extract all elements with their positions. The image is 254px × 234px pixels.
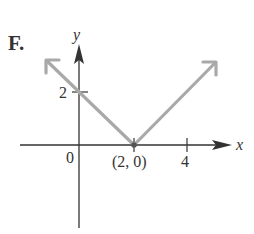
y-tick-label-2: 2: [59, 84, 67, 101]
curve-abs-x-minus-2: [46, 60, 216, 145]
y-axis-label: y: [71, 26, 81, 44]
x-axis-label: x: [235, 136, 243, 153]
vertex-point: [131, 142, 137, 148]
x-axis: [20, 140, 232, 150]
figure-label: F.: [8, 31, 24, 55]
absolute-value-graph: F. x y 0 4 2 (2, 0): [0, 0, 254, 234]
origin-label: 0: [66, 149, 74, 166]
x-tick-label-4: 4: [181, 153, 189, 170]
y-axis: [74, 44, 84, 228]
vertex-label: (2, 0): [112, 153, 147, 171]
